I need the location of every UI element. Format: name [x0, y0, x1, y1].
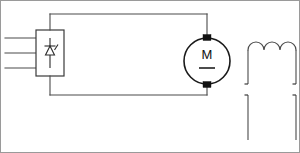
rectifier-block: [36, 30, 64, 76]
dc-link-wires: [50, 14, 207, 95]
circuit-diagram-canvas: M: [0, 0, 300, 153]
dc-motor: M: [184, 35, 230, 88]
motor-label: M: [202, 47, 213, 62]
motor-brush-top-icon: [203, 35, 211, 41]
motor-brush-bottom-icon: [203, 82, 211, 88]
ac-input-lines: [5, 38, 36, 68]
field-winding: [245, 42, 297, 140]
circuit-schematic: M: [0, 0, 300, 153]
coil-arcs-icon: [248, 42, 296, 50]
